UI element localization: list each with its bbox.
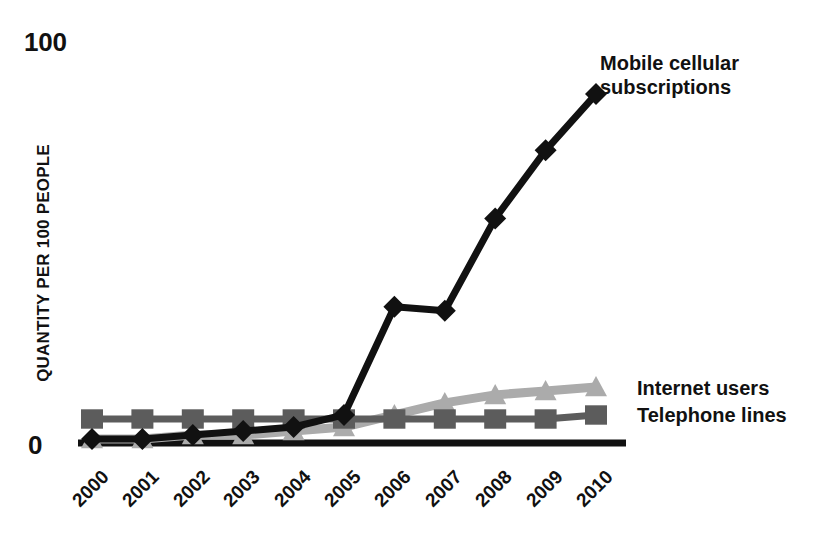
data-point-marker [484, 409, 506, 428]
annotation-mobile-line-1: Mobile cellular [600, 52, 800, 76]
annotation-telephone-lines: Telephone lines [637, 404, 787, 428]
series-line [92, 94, 596, 439]
chart-container: 100 0 QUANTITY PER 100 PEOPLE 2000200120… [0, 0, 840, 555]
data-point-marker [434, 409, 456, 428]
data-point-marker [383, 409, 405, 428]
data-point-marker [131, 409, 153, 428]
data-point-marker [81, 409, 103, 428]
annotation-mobile-line-2: subscriptions [600, 76, 800, 100]
data-point-marker [383, 296, 405, 318]
annotation-mobile-cellular: Mobile cellular subscriptions [600, 52, 800, 99]
data-point-marker [535, 409, 557, 428]
annotation-internet-users: Internet users [637, 377, 769, 401]
data-point-marker [585, 405, 607, 424]
